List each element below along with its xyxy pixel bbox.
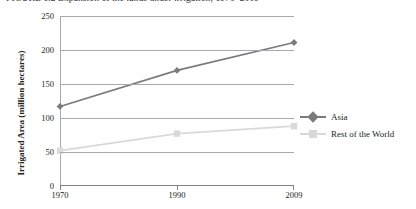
- y-axis-tick-label: 100: [24, 114, 54, 123]
- data-point-marker: [57, 103, 64, 110]
- data-point-marker: [174, 67, 181, 74]
- x-axis-tick-label: 2009: [286, 190, 303, 200]
- legend-label: Asia: [331, 112, 348, 122]
- legend-item-rest-of-the-world[interactable]: Rest of the World: [300, 125, 416, 142]
- gridline: [60, 118, 294, 119]
- square-marker-icon: [309, 130, 317, 138]
- legend-item-asia[interactable]: Asia: [300, 108, 416, 125]
- plot-area: [60, 16, 294, 186]
- gridline: [60, 84, 294, 85]
- y-axis-tick-label: 200: [24, 46, 54, 55]
- x-axis-tick-label: 1990: [169, 190, 186, 200]
- figure-caption: FIGURE 1.2 Expansion of the lands under …: [6, 0, 259, 3]
- y-axis-tick-label: 250: [24, 12, 54, 21]
- series-line-rest-of-the-world: [60, 126, 294, 150]
- gridline: [60, 50, 294, 51]
- data-point-marker: [291, 39, 298, 46]
- data-point-marker: [291, 123, 297, 129]
- x-axis-tick-labels: 197019902009: [60, 190, 294, 208]
- y-axis-tick-labels: 050100150200250: [22, 7, 54, 209]
- figure-caption-strip: FIGURE 1.2 Expansion of the lands under …: [0, 0, 416, 7]
- y-axis-tick-label: 50: [24, 148, 54, 157]
- series-layer: [60, 16, 294, 186]
- x-axis-tick-label: 1970: [52, 190, 69, 200]
- gridline: [60, 16, 294, 17]
- legend-swatch: [300, 111, 326, 122]
- legend-swatch: [300, 128, 326, 139]
- gridline: [60, 152, 294, 153]
- chart-figure: Irrigated Area (million hectares) 050100…: [0, 7, 416, 209]
- legend-label: Rest of the World: [331, 129, 394, 139]
- data-point-marker: [174, 130, 180, 136]
- y-axis-tick-label: 150: [24, 80, 54, 89]
- chart-legend: AsiaRest of the World: [300, 108, 416, 142]
- series-line-asia: [60, 43, 294, 107]
- y-axis-tick-label: 0: [24, 182, 54, 191]
- diamond-marker-icon: [307, 111, 318, 122]
